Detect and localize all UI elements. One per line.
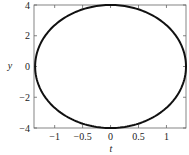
y-tick-label: 2 — [25, 30, 30, 41]
x-tick-label: −1 — [49, 131, 60, 142]
x-axis-label: t — [110, 143, 113, 154]
x-tick-label: 1 — [164, 131, 169, 142]
x-tick-label: 0 — [108, 131, 113, 142]
y-tick-label: −4 — [19, 123, 30, 134]
y-axis-label: y — [7, 60, 13, 71]
y-tick-label: −2 — [19, 92, 30, 103]
x-tick-label: −0.5 — [74, 131, 92, 142]
x-tick-label: 0.5 — [132, 131, 145, 142]
y-tick-label: 4 — [25, 0, 30, 11]
y-tick-label: 0 — [25, 61, 30, 72]
plot-area: −4−2024 −1−0.500.51 — [19, 0, 186, 142]
ellipse-chart: −4−2024 −1−0.500.51 t y — [0, 0, 189, 155]
